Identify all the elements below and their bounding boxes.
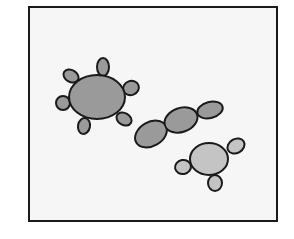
diagram-canvas: [0, 0, 294, 239]
bud: [56, 96, 70, 110]
cell-body: [190, 143, 228, 175]
cell-body: [69, 75, 125, 119]
bud: [208, 175, 222, 191]
bud: [97, 58, 109, 76]
diagram-frame: [29, 7, 277, 221]
